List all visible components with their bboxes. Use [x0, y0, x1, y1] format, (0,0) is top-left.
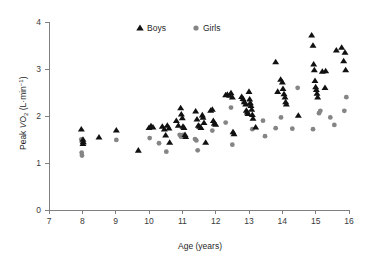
boys-data-points — [78, 32, 349, 153]
boys-point — [280, 86, 287, 92]
girls-point — [210, 128, 215, 133]
girls-point — [157, 141, 162, 146]
boys-point — [252, 124, 259, 130]
x-tick-label: 15 — [311, 216, 321, 226]
legend-label-girls: Girls — [203, 23, 220, 33]
girls-point — [318, 108, 323, 113]
boys-point — [192, 108, 199, 114]
boys-point — [78, 126, 85, 132]
boys-point — [322, 85, 329, 91]
boys-point — [178, 111, 185, 117]
y-tick-label: 3 — [36, 64, 41, 74]
boys-point — [113, 127, 120, 133]
girls-point — [261, 118, 266, 123]
legend-label-boys: Boys — [147, 23, 166, 33]
boys-point — [310, 42, 317, 48]
girls-point — [263, 134, 268, 139]
girls-point — [80, 153, 85, 158]
x-tick-label: 7 — [47, 216, 52, 226]
axis-lines — [49, 22, 349, 210]
y-tick-label: 0 — [36, 205, 41, 215]
chart-canvas: 7891011121314151601234 BoysGirls Age (ye… — [0, 0, 365, 259]
girls-point — [342, 108, 347, 113]
girls-point — [147, 136, 152, 141]
boys-point — [272, 59, 279, 65]
boys-point — [338, 44, 345, 50]
boys-point — [228, 90, 235, 96]
girls-point — [279, 115, 284, 120]
legend-marker-girls — [193, 25, 198, 30]
girls-point — [195, 148, 200, 153]
boys-point — [246, 88, 253, 94]
y-axis-title-text: Peak VO2 (L·min−1) — [18, 76, 29, 150]
boys-point — [201, 119, 208, 125]
girls-point — [273, 126, 278, 131]
boys-point — [162, 132, 169, 138]
boys-point — [311, 67, 318, 73]
girls-point — [344, 95, 349, 100]
x-tick-label: 14 — [278, 216, 288, 226]
x-tick-label: 13 — [244, 216, 254, 226]
x-tick-label: 11 — [178, 216, 187, 226]
x-tick-label: 10 — [144, 216, 154, 226]
boys-point — [246, 96, 253, 102]
boys-point — [342, 49, 349, 55]
girls-point — [164, 149, 169, 154]
boys-point — [166, 139, 173, 145]
x-axis-title: Age (years) — [178, 241, 222, 251]
y-tick-label: 4 — [36, 17, 41, 27]
girls-point — [114, 138, 119, 143]
girls-point — [332, 123, 337, 128]
girls-point — [295, 85, 300, 90]
girls-point — [223, 120, 228, 125]
boys-point — [333, 47, 340, 53]
axes — [49, 22, 349, 210]
girls-point — [311, 127, 316, 132]
y-tick-label: 1 — [36, 158, 41, 168]
boys-point — [340, 58, 347, 64]
legend: BoysGirls — [136, 23, 220, 33]
boys-point — [312, 78, 319, 84]
y-tick-label: 2 — [36, 111, 41, 121]
boys-point — [310, 61, 317, 67]
y-title-prefix: Peak — [18, 128, 28, 150]
boys-point — [202, 139, 209, 145]
legend-marker-boys — [136, 25, 143, 31]
boys-point — [281, 91, 288, 97]
boys-point — [135, 147, 142, 153]
boys-point — [308, 32, 315, 38]
scatter-plot-figure: 7891011121314151601234 BoysGirls Age (ye… — [0, 0, 365, 259]
x-tick-label: 12 — [211, 216, 221, 226]
y-axis-title: Peak VO2 (L·min−1) — [18, 76, 29, 150]
y-title-suffix: ) — [18, 76, 28, 79]
girls-point — [230, 142, 235, 147]
boys-point — [177, 105, 184, 111]
boys-point — [342, 67, 349, 73]
girls-point — [290, 126, 295, 131]
y-title-mid: (L·min — [18, 86, 28, 113]
boys-point — [173, 118, 180, 124]
boys-point — [295, 112, 302, 118]
girls-point — [229, 105, 234, 110]
x-tick-label: 9 — [113, 216, 118, 226]
x-tick-label: 8 — [80, 216, 85, 226]
boys-point — [274, 88, 281, 94]
girls-point — [328, 115, 333, 120]
boys-point — [96, 134, 103, 140]
girls-point — [194, 138, 199, 143]
x-tick-label: 16 — [344, 216, 354, 226]
